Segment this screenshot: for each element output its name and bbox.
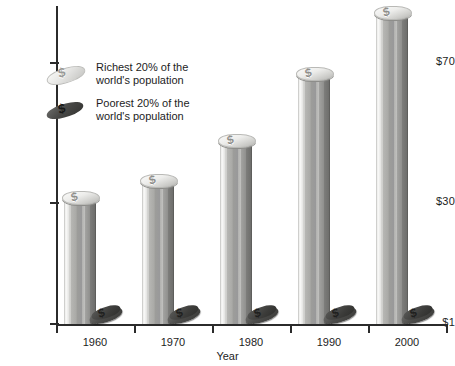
rich-bar-cap-1990: $ <box>296 65 332 80</box>
x-axis-title: Year <box>0 350 455 362</box>
legend-label-richest: Richest 20% of the world's population <box>96 61 246 87</box>
x-axis-line <box>56 324 448 326</box>
coin-plate <box>62 191 100 205</box>
rich-bar-cap-1980: $ <box>218 132 254 147</box>
rich-bar-cap-1970: $ <box>140 172 176 187</box>
x-tick-label-1990: 1990 <box>299 336 359 348</box>
x-tick-2 <box>212 325 214 333</box>
legend-label-richest-line2: world's population <box>96 74 246 87</box>
poor-bar-1970[interactable]: $ <box>167 302 201 324</box>
x-tick-4 <box>368 325 370 333</box>
legend-label-poorest-line2: world's population <box>96 110 246 123</box>
coin-plate <box>296 67 334 81</box>
coin-plate <box>218 134 256 148</box>
rich-bar-cap-2000: $ <box>374 4 410 19</box>
x-tick-end <box>446 325 448 333</box>
x-tick-3 <box>290 325 292 333</box>
poor-bar-1980[interactable]: $ <box>245 302 279 324</box>
legend-label-poorest-line1: Poorest 20% of the <box>96 97 246 110</box>
rich-bar-2000[interactable]: $ <box>376 12 408 324</box>
poor-bar-2000[interactable]: $ <box>401 302 435 324</box>
coin-plate <box>140 174 178 188</box>
poor-bar-1960[interactable]: $ <box>89 302 123 324</box>
x-tick-label-1980: 1980 <box>221 336 281 348</box>
y-tick-label-30: $30 <box>415 195 455 207</box>
x-tick-start <box>56 325 58 333</box>
y-axis-line <box>56 6 58 326</box>
poor-bar-1990[interactable]: $ <box>323 302 357 324</box>
dollar-coin-light-icon: $ <box>46 64 84 84</box>
x-tick-label-1960: 1960 <box>65 336 125 348</box>
x-tick-label-1970: 1970 <box>143 336 203 348</box>
coin-plate <box>374 6 412 20</box>
chart-container: $70 $30 $1 1960 1970 1980 1990 2000 Year… <box>0 0 455 366</box>
legend-label-poorest: Poorest 20% of the world's population <box>96 97 246 123</box>
rich-bar-1990[interactable]: $ <box>298 73 330 324</box>
y-tick-label-70: $70 <box>415 55 455 67</box>
x-tick-1 <box>134 325 136 333</box>
x-tick-label-2000: 2000 <box>377 336 437 348</box>
dollar-coin-dark-icon: $ <box>46 100 84 120</box>
rich-bar-cap-1960: $ <box>62 189 98 204</box>
legend-label-richest-line1: Richest 20% of the <box>96 61 246 74</box>
rich-bar-1980[interactable]: $ <box>220 140 252 324</box>
y-tick-30 <box>50 202 59 204</box>
